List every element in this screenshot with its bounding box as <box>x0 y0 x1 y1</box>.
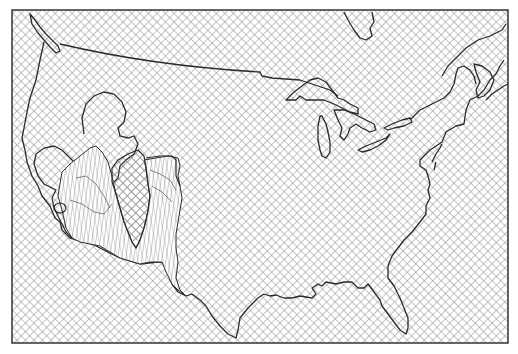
us-map <box>0 0 518 354</box>
map-container <box>0 0 518 354</box>
